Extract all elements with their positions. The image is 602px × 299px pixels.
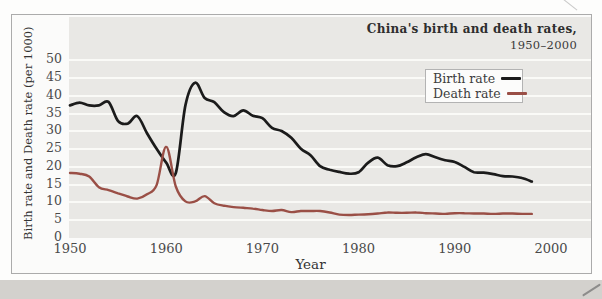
y-axis-label: Birth rate and Death rate (per 1000) (21, 40, 35, 240)
gridline-5 (69, 219, 591, 221)
gridline-20 (69, 166, 591, 168)
x-tick-1990: 1990 (431, 242, 479, 256)
legend-label-birth-rate: Birth rate (433, 71, 495, 86)
scan-artifact-top-right (563, 0, 578, 10)
x-tick-2000: 2000 (527, 242, 575, 256)
gridline-35 (69, 113, 591, 115)
legend-item-death-rate: Death rate (433, 86, 515, 101)
x-tick-1960: 1960 (142, 242, 190, 256)
death-rate-swatch (507, 92, 527, 95)
legend-item-birth-rate: Birth rate (433, 71, 515, 86)
page-bottom-strip (0, 280, 602, 299)
gridline-50 (69, 59, 591, 61)
page: { "chart_data": { "type": "line", "title… (0, 0, 602, 299)
gridline-25 (69, 148, 591, 150)
chart-title-block: China's birth and death rates, 1950–2000 (367, 22, 577, 52)
x-tick-1970: 1970 (238, 242, 286, 256)
gridline-15 (69, 184, 591, 186)
legend: Birth rate Death rate (425, 69, 523, 103)
gridline-10 (69, 201, 591, 203)
chart-card (11, 14, 592, 274)
gridline-30 (69, 130, 591, 132)
legend-label-death-rate: Death rate (433, 86, 501, 101)
x-tick-1950: 1950 (46, 242, 94, 256)
birth-rate-swatch (501, 77, 521, 80)
x-tick-1980: 1980 (335, 242, 383, 256)
chart-title: China's birth and death rates, (367, 22, 577, 36)
chart-subtitle: 1950–2000 (367, 38, 577, 52)
x-axis-label: Year (280, 256, 341, 272)
